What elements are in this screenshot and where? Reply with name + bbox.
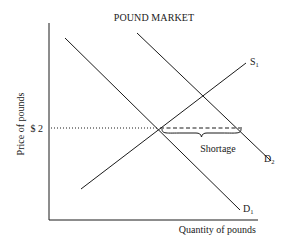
price-tick-label: $ 2	[31, 123, 44, 134]
x-axis-label: Quantity of pounds	[179, 224, 256, 235]
pound-market-diagram: POUND MARKET Price of pounds Quantity of…	[0, 0, 288, 245]
chart-title: POUND MARKET	[114, 12, 194, 23]
supply-curve-s1	[81, 63, 246, 189]
y-axis-label: Price of pounds	[15, 93, 26, 156]
d2-label: D2	[264, 153, 274, 165]
demand-curve-d2	[137, 33, 271, 161]
demand-curve-d1	[65, 38, 240, 210]
diagram-canvas: POUND MARKET Price of pounds Quantity of…	[0, 0, 288, 245]
shortage-label: Shortage	[200, 143, 236, 154]
shortage-brace	[162, 129, 241, 137]
d1-label: D1	[243, 203, 253, 215]
s1-label: S1	[250, 56, 259, 68]
